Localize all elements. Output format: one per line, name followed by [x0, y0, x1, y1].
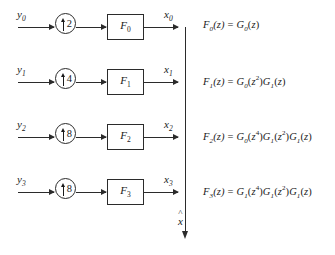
input-signal-label: y1: [17, 63, 26, 78]
input-signal-index: 3: [22, 179, 26, 188]
upsampler-node: 8: [55, 123, 76, 144]
equation-term-function: G: [289, 131, 297, 142]
output-signal-label: x1: [164, 63, 173, 78]
transfer-function-equation: F0(z)=G0(z): [203, 19, 259, 33]
wire-arrowhead: [173, 79, 179, 85]
output-label-xhat: ^ x: [178, 211, 183, 226]
up-arrow-icon: [61, 128, 66, 141]
xhat-variable: x: [178, 216, 183, 226]
branch-row: y02F0x0F0(z)=G0(z): [0, 0, 335, 55]
input-signal-index: 2: [22, 124, 26, 133]
equation-paren-close: ): [308, 131, 312, 142]
output-signal-label: x3: [164, 173, 173, 188]
transfer-function-equation: F3(z)=G1(z4)G1(z2)G1(z): [203, 184, 312, 200]
upsample-factor-label: 4: [66, 74, 72, 85]
filter-block: F3: [107, 179, 144, 205]
filter-name: F: [120, 184, 127, 196]
upsampler-node: 8: [55, 178, 76, 199]
output-signal-label: x2: [164, 118, 173, 133]
wire-arrowhead: [173, 189, 179, 195]
upsample-factor-label: 8: [66, 129, 72, 140]
input-signal-index: 0: [22, 14, 26, 23]
wire-arrowhead: [173, 24, 179, 30]
branch-row: y28F2x2F2(z)=G0(z4)G1(z2)G1(z): [0, 110, 335, 165]
bus-output-arrowhead: [182, 231, 188, 239]
filter-block-label: F2: [120, 129, 130, 144]
equation-term-function: G: [263, 131, 271, 142]
filter-block-label: F1: [120, 74, 130, 89]
filter-index: 0: [127, 26, 131, 35]
equation-term-function: G: [289, 186, 297, 197]
output-signal-label: x0: [164, 8, 173, 23]
equation-lhs-argument: (z): [213, 186, 224, 197]
filter-block: F2: [107, 124, 144, 150]
equation-equals-sign: =: [225, 19, 237, 30]
upsampler-content: 8: [56, 124, 77, 145]
branch-row: y14F1x1F1(z)=G0(z2)G1(z): [0, 55, 335, 110]
equation-term-function: G: [263, 76, 271, 87]
filter-index: 1: [127, 81, 131, 90]
equation-lhs-argument: (z): [213, 19, 224, 30]
filter-block: F1: [107, 69, 144, 95]
up-arrow-icon: [61, 18, 66, 31]
output-signal-index: 3: [169, 179, 173, 188]
filter-name: F: [120, 74, 127, 86]
filter-block: F0: [107, 14, 144, 40]
equation-paren-close: ): [256, 19, 260, 30]
equation-lhs-argument: (z): [213, 131, 224, 142]
upsampler-content: 4: [56, 69, 77, 90]
upsampler-node: 4: [55, 68, 76, 89]
transfer-function-equation: F1(z)=G0(z2)G1(z): [203, 74, 286, 90]
equation-equals-sign: =: [225, 76, 237, 87]
equation-paren-close: ): [308, 186, 312, 197]
filter-index: 2: [127, 136, 131, 145]
equation-term-function: G: [263, 186, 271, 197]
equation-equals-sign: =: [225, 131, 237, 142]
upsample-factor-label: 8: [66, 184, 72, 195]
filter-index: 3: [127, 191, 131, 200]
filter-name: F: [120, 19, 127, 31]
up-arrow-icon: [61, 73, 66, 86]
input-signal-label: y3: [17, 173, 26, 188]
input-signal-index: 1: [22, 69, 26, 78]
up-arrow-icon: [61, 183, 66, 196]
summing-bus-line: [185, 27, 186, 235]
output-signal-index: 0: [169, 14, 173, 23]
transfer-function-equation: F2(z)=G0(z4)G1(z2)G1(z): [203, 129, 312, 145]
filter-block-label: F0: [120, 19, 130, 34]
output-signal-index: 2: [169, 124, 173, 133]
equation-lhs-argument: (z): [213, 76, 224, 87]
equation-equals-sign: =: [225, 186, 237, 197]
upsampler-content: 2: [56, 14, 77, 35]
signal-flow-diagram: y02F0x0F0(z)=G0(z)y14F1x1F1(z)=G0(z2)G1(…: [0, 0, 335, 255]
upsampler-content: 8: [56, 179, 77, 200]
input-signal-label: y2: [17, 118, 26, 133]
output-signal-index: 1: [169, 69, 173, 78]
wire-arrowhead: [173, 134, 179, 140]
upsample-factor-label: 2: [66, 19, 72, 30]
filter-block-label: F3: [120, 184, 130, 199]
equation-paren-close: ): [282, 76, 286, 87]
branch-row: y38F3x3F3(z)=G1(z4)G1(z2)G1(z): [0, 165, 335, 220]
input-signal-label: y0: [17, 8, 26, 23]
upsampler-node: 2: [55, 13, 76, 34]
filter-name: F: [120, 129, 127, 141]
